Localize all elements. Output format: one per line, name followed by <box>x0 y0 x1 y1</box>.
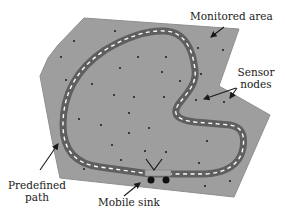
label-mobile-sink: Mobile sink <box>98 196 160 208</box>
wheel-left <box>148 177 155 184</box>
label-sensor-nodes-line1: Sensor <box>236 66 276 78</box>
label-monitored-area: Monitored area <box>190 10 273 22</box>
label-predefined-path: Predefined path <box>8 179 66 203</box>
label-sensor-nodes: Sensor nodes <box>236 66 276 90</box>
label-predefined-path-line1: Predefined <box>8 179 66 191</box>
diagram-canvas: Monitored area Sensor nodes Predefined p… <box>0 0 285 222</box>
label-sensor-nodes-line2: nodes <box>236 78 276 90</box>
wheel-right <box>163 177 170 184</box>
label-predefined-path-line2: path <box>8 191 66 203</box>
